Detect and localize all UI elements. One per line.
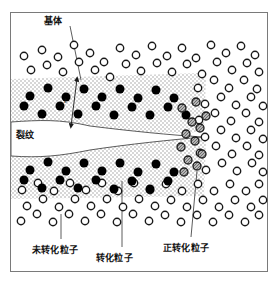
particle-untransformed xyxy=(259,102,266,109)
particle-untransformed xyxy=(226,180,233,187)
particle-untransformed xyxy=(113,218,120,225)
particle-untransformed xyxy=(81,217,88,224)
particle-transformed xyxy=(74,184,83,193)
diagram-canvas: 基体 裂纹 未转化粒子 转化粒子 正转化粒子 t xyxy=(0,0,279,283)
particle-transformed xyxy=(56,176,65,185)
particle-transformed xyxy=(20,176,29,185)
particle-untransformed xyxy=(198,70,205,77)
particle-transforming xyxy=(191,137,199,145)
particle-transforming xyxy=(202,112,210,120)
particle-untransformed xyxy=(210,187,217,194)
particle-transformed xyxy=(26,92,35,101)
particle-untransformed xyxy=(122,60,129,67)
particle-transformed xyxy=(152,160,161,169)
particle-transformed xyxy=(134,168,143,177)
particle-untransformed xyxy=(194,180,201,187)
particle-untransformed xyxy=(132,51,139,58)
particle-untransformed xyxy=(39,195,46,202)
particle-untransformed xyxy=(97,210,104,217)
particle-untransformed xyxy=(116,44,123,51)
particle-untransformed xyxy=(242,187,249,194)
particle-untransformed xyxy=(43,61,50,68)
particle-transforming xyxy=(177,143,185,151)
particle-transforming xyxy=(182,130,190,138)
label-transformed-particle: 转化粒子 xyxy=(96,251,133,264)
particle-untransformed xyxy=(232,134,239,141)
particle-untransformed xyxy=(148,42,155,49)
label-transforming-particle: 正转化粒子 xyxy=(163,241,209,254)
particle-untransformed xyxy=(87,202,94,209)
particle-untransformed xyxy=(100,58,107,65)
particle-transformed xyxy=(146,111,155,120)
particle-untransformed xyxy=(54,53,61,60)
particle-untransformed xyxy=(18,186,25,193)
particle-transformed xyxy=(164,177,173,186)
particle-untransformed xyxy=(217,126,224,133)
particle-untransformed xyxy=(259,135,266,142)
particle-transformed xyxy=(128,177,137,186)
particle-untransformed xyxy=(212,142,219,149)
particle-untransformed xyxy=(153,59,160,66)
particle-untransformed xyxy=(225,84,232,91)
particle-untransformed xyxy=(71,195,78,202)
particle-transformed xyxy=(38,184,47,193)
particle-transforming xyxy=(184,156,192,164)
particle-transformed xyxy=(116,159,125,168)
particle-untransformed xyxy=(59,68,66,75)
particle-untransformed xyxy=(218,159,225,166)
particle-untransformed xyxy=(161,211,168,218)
particle-untransformed xyxy=(247,93,254,100)
particle-untransformed xyxy=(33,210,40,217)
particle-untransformed xyxy=(151,202,158,209)
particle-transforming xyxy=(193,162,201,170)
particle-transforming xyxy=(198,150,206,158)
particle-transformed xyxy=(62,167,71,176)
particle-untransformed xyxy=(86,49,93,56)
particle-transformed xyxy=(98,93,107,102)
particle-untransformed xyxy=(65,210,72,217)
particle-untransformed xyxy=(70,41,77,48)
particle-untransformed xyxy=(183,203,190,210)
particle-untransformed xyxy=(227,117,234,124)
particle-transformed xyxy=(110,185,119,194)
particle-transformed xyxy=(128,103,137,112)
particle-untransformed xyxy=(75,58,82,65)
particle-untransformed xyxy=(215,203,222,210)
particle-untransformed xyxy=(163,52,170,59)
particle-transformed xyxy=(170,168,179,177)
particle-untransformed xyxy=(17,217,24,224)
particle-transformed xyxy=(44,158,53,167)
particle-untransformed xyxy=(27,66,34,73)
particle-untransformed xyxy=(259,168,266,175)
particle-transformed xyxy=(92,176,101,185)
particle-transformed xyxy=(146,185,155,194)
zone-thickness-symbol: t xyxy=(64,97,67,105)
particle-untransformed xyxy=(241,218,248,225)
particle-untransformed xyxy=(38,46,45,53)
label-untransformed-particle: 未转化粒子 xyxy=(32,243,78,256)
particle-untransformed xyxy=(253,85,260,92)
particle-transformed xyxy=(110,111,119,120)
particle-untransformed xyxy=(106,73,113,80)
particle-untransformed xyxy=(178,187,185,194)
particle-untransformed xyxy=(209,218,216,225)
particle-untransformed xyxy=(23,202,30,209)
particle-untransformed xyxy=(228,150,235,157)
particle-transformed xyxy=(26,166,35,175)
particle-untransformed xyxy=(217,93,224,100)
particle-untransformed xyxy=(82,186,89,193)
particle-untransformed xyxy=(201,133,208,140)
label-matrix: 基体 xyxy=(44,14,62,27)
particle-transformed xyxy=(80,159,89,168)
particle-transformed xyxy=(98,167,107,176)
particle-untransformed xyxy=(168,68,175,75)
particle-transformed xyxy=(170,94,179,103)
particle-transformed xyxy=(164,103,173,112)
particle-untransformed xyxy=(232,101,239,108)
particle-untransformed xyxy=(259,196,266,203)
particle-untransformed xyxy=(210,76,217,83)
particle-untransformed xyxy=(211,109,218,116)
particle-transforming xyxy=(188,118,196,126)
particle-transforming xyxy=(178,104,186,112)
particle-untransformed xyxy=(66,179,73,186)
